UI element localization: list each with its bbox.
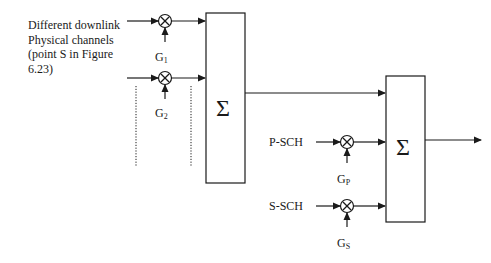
sigma-symbol-2: Σ [396,135,410,159]
gain-label-g2: G2 [155,106,168,121]
gain-label-gs: GS [337,236,350,251]
gain-label-gp: GP [337,172,350,187]
caption-line: 6.23) [28,62,120,77]
sigma-symbol-1: Σ [216,96,230,120]
ssch-label: S-SCH [269,199,303,213]
caption-line: Different downlink [28,18,120,33]
input-caption: Different downlink Physical channels (po… [28,18,120,76]
gain-label-g1: G1 [155,50,168,65]
psch-label: P-SCH [269,135,303,149]
caption-line: (point S in Figure [28,47,120,62]
caption-line: Physical channels [28,33,120,48]
